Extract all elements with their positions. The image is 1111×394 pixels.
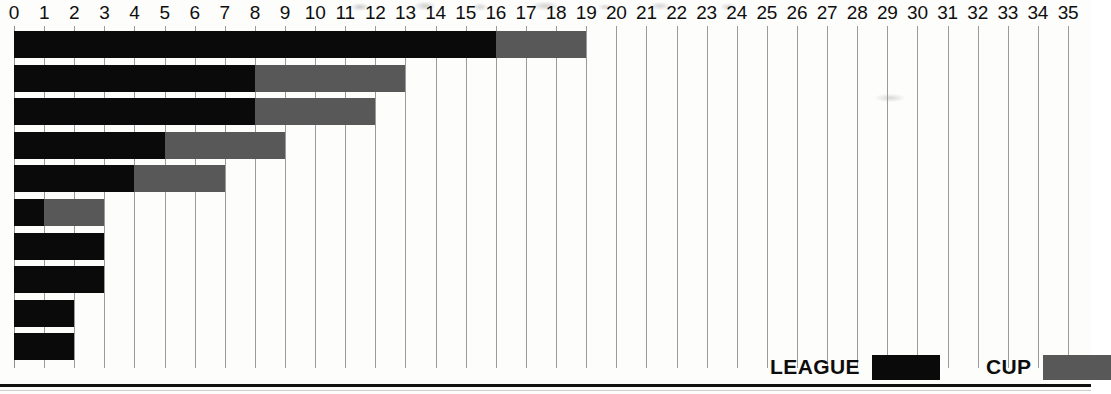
bar-segment-cup (496, 31, 586, 58)
bar-segment-cup (255, 98, 375, 125)
legend-spacer (940, 367, 986, 368)
bar-row (0, 65, 1091, 92)
bar-segment-cup (44, 199, 104, 226)
x-tick-label-1: 1 (39, 2, 49, 24)
bar-segment-league (14, 165, 134, 192)
bar-row (0, 199, 1091, 226)
x-tick-label-14: 14 (425, 2, 446, 24)
bar-segment-league (14, 266, 104, 293)
bar-series-group (0, 26, 1091, 368)
bottom-rule-hairline (0, 390, 1091, 391)
bar-row (0, 132, 1091, 159)
x-tick-label-0: 0 (9, 2, 19, 24)
x-tick-label-33: 33 (997, 2, 1018, 24)
x-tick-label-35: 35 (1058, 2, 1079, 24)
legend-label: CUP (986, 355, 1032, 379)
x-tick-label-29: 29 (877, 2, 898, 24)
x-tick-label-34: 34 (1028, 2, 1049, 24)
legend-swatch-league (872, 355, 940, 380)
bar-segment-cup (165, 132, 285, 159)
x-tick-label-3: 3 (99, 2, 109, 24)
legend-item-cup: CUP (986, 355, 1111, 380)
bar-segment-league (14, 31, 496, 58)
legend-swatch-cup (1043, 355, 1111, 380)
x-tick-label-26: 26 (787, 2, 808, 24)
legend-label: LEAGUE (770, 355, 860, 379)
bar-segment-league (14, 65, 255, 92)
bar-segment-league (14, 333, 74, 360)
x-tick-label-11: 11 (336, 2, 355, 24)
bar-row (0, 165, 1091, 192)
x-tick-label-20: 20 (606, 2, 627, 24)
x-tick-label-25: 25 (756, 2, 777, 24)
bar-segment-league (14, 199, 44, 226)
x-tick-label-17: 17 (516, 2, 537, 24)
bar-row (0, 98, 1091, 125)
bar-row (0, 233, 1091, 260)
x-tick-label-2: 2 (69, 2, 79, 24)
x-tick-label-32: 32 (967, 2, 988, 24)
chart-legend: LEAGUECUP (770, 352, 1111, 382)
x-tick-label-12: 12 (365, 2, 386, 24)
x-tick-label-4: 4 (129, 2, 139, 24)
x-tick-label-31: 31 (937, 2, 958, 24)
x-tick-label-22: 22 (666, 2, 687, 24)
x-tick-label-8: 8 (250, 2, 260, 24)
bar-segment-league (14, 132, 165, 159)
x-tick-label-24: 24 (726, 2, 747, 24)
x-tick-label-18: 18 (546, 2, 567, 24)
x-tick-label-28: 28 (847, 2, 868, 24)
bar-segment-league (14, 98, 255, 125)
bar-segment-cup (255, 65, 406, 92)
x-tick-label-23: 23 (696, 2, 717, 24)
bar-row (0, 31, 1091, 58)
x-tick-label-10: 10 (305, 2, 326, 24)
x-tick-label-15: 15 (455, 2, 476, 24)
legend-item-league: LEAGUE (770, 355, 940, 380)
x-tick-label-9: 9 (280, 2, 290, 24)
bottom-rule (0, 384, 1091, 387)
x-tick-label-16: 16 (485, 2, 506, 24)
x-tick-label-27: 27 (817, 2, 838, 24)
bar-segment-league (14, 233, 104, 260)
bar-row (0, 300, 1091, 327)
x-axis-tick-labels: 0123456789101112131415161718192021222324… (0, 0, 1091, 26)
x-tick-label-5: 5 (159, 2, 169, 24)
x-tick-label-13: 13 (395, 2, 416, 24)
x-tick-label-7: 7 (220, 2, 230, 24)
bar-segment-league (14, 300, 74, 327)
bar-row (0, 266, 1091, 293)
x-tick-label-21: 21 (636, 2, 657, 24)
x-tick-label-30: 30 (907, 2, 928, 24)
plot-area (0, 26, 1091, 368)
bar-segment-cup (134, 165, 224, 192)
x-tick-label-19: 19 (576, 2, 597, 24)
x-tick-label-6: 6 (189, 2, 199, 24)
